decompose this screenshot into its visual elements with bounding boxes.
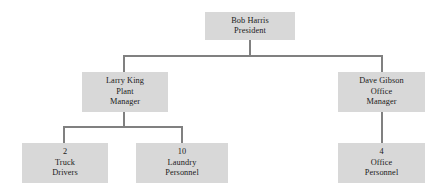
- node-truck-drivers: 2 Truck Drivers: [22, 143, 108, 183]
- node-office-manager-line-2: Manager: [366, 97, 396, 108]
- node-plant-manager-line-0: Larry King: [106, 76, 144, 87]
- node-plant-manager-line-1: Plant: [116, 87, 134, 98]
- node-president: Bob Harris President: [205, 12, 295, 40]
- node-truck-drivers-line-2: Drivers: [52, 168, 78, 179]
- node-truck-drivers-count: 2: [63, 147, 67, 158]
- node-laundry-personnel: 10 Laundry Personnel: [136, 143, 228, 183]
- node-laundry-personnel-line-2: Personnel: [165, 168, 199, 179]
- node-president-line-0: Bob Harris: [231, 16, 269, 27]
- node-office-manager-line-1: Office: [371, 87, 393, 98]
- node-laundry-personnel-count: 10: [178, 147, 187, 158]
- node-president-line-1: President: [234, 26, 266, 37]
- node-plant-manager: Larry King Plant Manager: [82, 72, 168, 112]
- node-office-manager: Dave Gibson Office Manager: [338, 72, 425, 112]
- node-laundry-personnel-line-1: Laundry: [168, 158, 197, 169]
- node-truck-drivers-line-1: Truck: [55, 158, 75, 169]
- node-office-manager-line-0: Dave Gibson: [359, 76, 404, 87]
- node-office-personnel: 4 Office Personnel: [338, 143, 425, 183]
- node-office-personnel-line-1: Office: [371, 158, 393, 169]
- node-office-personnel-line-2: Personnel: [365, 168, 399, 179]
- node-office-personnel-count: 4: [379, 147, 383, 158]
- org-chart: Bob Harris President Larry King Plant Ma…: [0, 0, 444, 192]
- node-plant-manager-line-2: Manager: [110, 97, 140, 108]
